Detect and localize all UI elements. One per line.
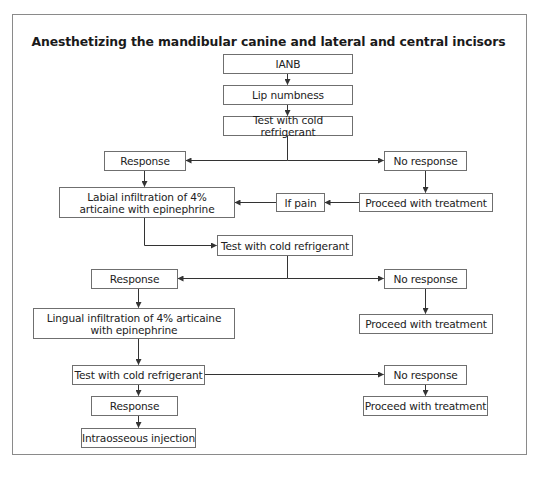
node-lingual-infiltration: Lingual infiltration of 4% articaine wit… (33, 308, 235, 339)
node-no-response-2: No response (384, 269, 467, 289)
node-test-cold-refrigerant-1: Test with cold refrigerant (223, 116, 353, 136)
node-if-pain: If pain (276, 193, 325, 212)
node-intraosseous-injection: Intraosseous injection (81, 428, 196, 448)
node-labial-infiltration: Labial infiltration of 4% articaine with… (59, 187, 235, 218)
node-response-2: Response (91, 269, 178, 289)
node-response-1: Response (104, 151, 186, 171)
node-proceed-with-treatment-3: Proceed with treatment (363, 396, 488, 416)
node-test-cold-refrigerant-2: Test with cold refrigerant (217, 235, 353, 256)
node-response-3: Response (91, 396, 178, 416)
node-test-cold-refrigerant-3: Test with cold refrigerant (72, 365, 205, 385)
node-no-response-1: No response (384, 151, 467, 171)
node-proceed-with-treatment-1: Proceed with treatment (359, 193, 493, 212)
node-no-response-3: No response (384, 365, 467, 385)
node-proceed-with-treatment-2: Proceed with treatment (359, 314, 493, 334)
node-ianb: IANB (223, 54, 353, 74)
node-lip-numbness: Lip numbness (223, 85, 353, 105)
